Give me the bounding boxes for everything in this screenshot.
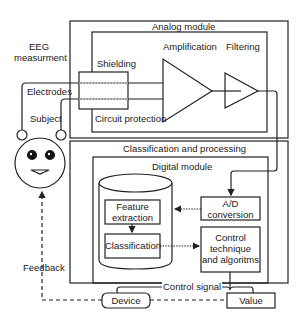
database-cylinder-top: [99, 174, 172, 192]
ad-conversion-label: A/D conversion: [201, 198, 260, 220]
analog-module-title: Analog module: [152, 21, 215, 32]
electrodes-label: Electrodes: [27, 86, 72, 97]
classification-processing-title: Classification and processing: [123, 143, 246, 154]
amplification-label: Amplification: [163, 41, 217, 52]
shielding-label: Shielding: [97, 58, 136, 69]
digital-module-title: Digital module: [152, 161, 212, 172]
feature-extraction-label: Feature extraction: [105, 201, 160, 223]
circuit-protection-label: Circuit protection: [95, 113, 166, 124]
control-technique-label: Control technique and algoritms: [199, 232, 262, 265]
value-label: Value: [227, 295, 275, 306]
shielding-box: [79, 72, 128, 109]
left-eye-icon: [28, 151, 37, 160]
control-signal-label: Control signal: [162, 281, 222, 292]
device-label: Device: [102, 295, 150, 306]
amplifier-triangle: [163, 59, 212, 122]
filtering-label: Filtering: [226, 41, 260, 52]
right-eye-icon: [46, 151, 55, 160]
classification-label: Classification: [105, 240, 160, 251]
subject-face: [15, 138, 65, 188]
electrode-circle-left: [17, 130, 27, 140]
subject-label: Subject: [30, 113, 62, 124]
eeg-measurement-label: EEG measurment: [14, 41, 64, 63]
feedback-label: Feedback: [23, 262, 65, 273]
electrode-circle-right: [56, 130, 66, 140]
